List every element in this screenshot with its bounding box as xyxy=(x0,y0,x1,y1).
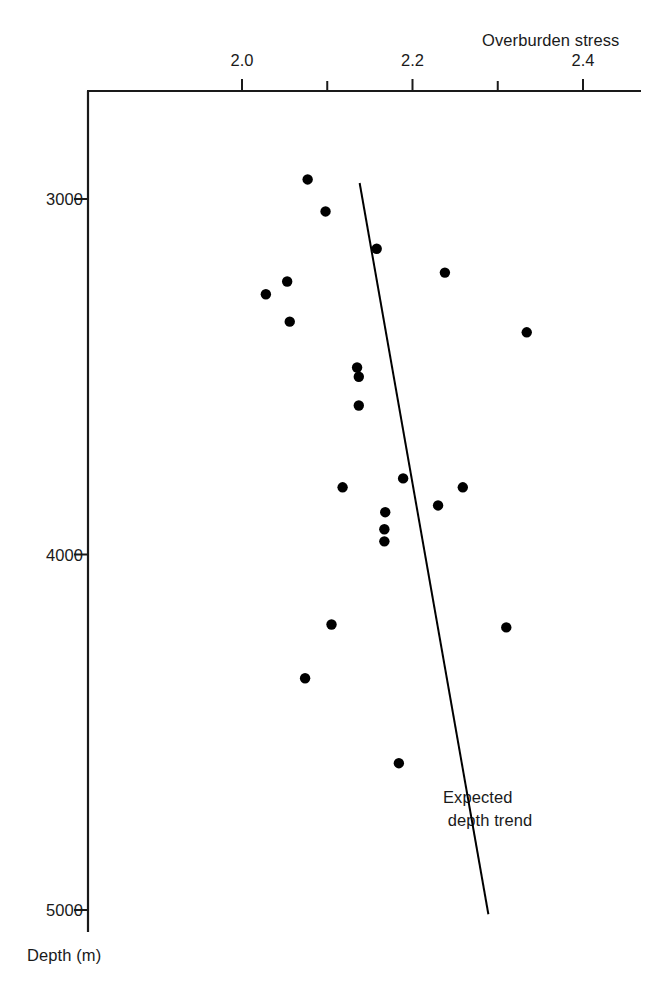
data-point-marker xyxy=(326,619,336,629)
data-point-marker xyxy=(394,758,404,768)
data-point-marker xyxy=(458,482,468,492)
data-point-marker xyxy=(354,372,364,382)
data-points xyxy=(261,174,532,768)
data-point-marker xyxy=(371,244,381,254)
data-point-marker xyxy=(379,536,389,546)
data-point-marker xyxy=(320,206,330,216)
x-axis-ticks xyxy=(242,79,583,91)
data-point-marker xyxy=(522,327,532,337)
data-point-marker xyxy=(379,524,389,534)
trend-line xyxy=(360,183,489,914)
y-axis-ticks xyxy=(74,199,88,910)
data-point-marker xyxy=(354,400,364,410)
data-point-marker xyxy=(501,622,511,632)
data-point-marker xyxy=(380,507,390,517)
data-point-marker xyxy=(285,316,295,326)
axis-lines xyxy=(87,91,641,932)
chart-figure: Overburden stress Depth (m) 2.02.22.4 30… xyxy=(0,0,661,1003)
expected-depth-trend-line xyxy=(360,183,489,914)
data-point-marker xyxy=(261,289,271,299)
data-point-marker xyxy=(302,174,312,184)
data-point-marker xyxy=(300,673,310,683)
data-point-marker xyxy=(337,482,347,492)
data-point-marker xyxy=(433,500,443,510)
data-point-marker xyxy=(282,276,292,286)
data-point-marker xyxy=(352,362,362,372)
data-point-marker xyxy=(440,267,450,277)
plot-area xyxy=(0,0,661,1003)
data-point-marker xyxy=(398,473,408,483)
